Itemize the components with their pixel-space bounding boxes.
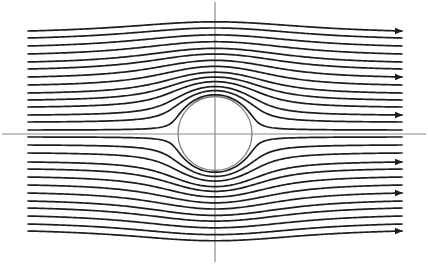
arrowhead-icon [395,74,403,80]
flow-diagram [0,0,428,266]
arrowhead-icon [395,228,403,234]
arrowhead-icon [395,159,403,165]
arrowhead-icon [395,28,403,34]
arrowhead-icon [395,112,403,118]
arrowhead-icon [395,190,403,196]
